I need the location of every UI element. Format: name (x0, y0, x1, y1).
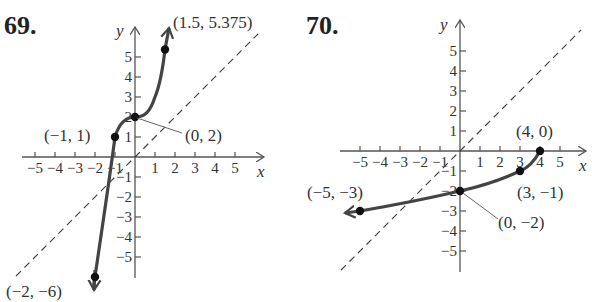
svg-text:5: 5 (450, 43, 458, 59)
svg-text:3: 3 (450, 83, 458, 99)
point-4-0 (536, 147, 544, 155)
svg-text:−3: −3 (116, 209, 132, 225)
label-1.5-5.375: (1.5, 5.375) (173, 13, 252, 32)
point-neg5-neg3 (356, 207, 364, 215)
svg-text:−3: −3 (67, 160, 83, 176)
y-axis-label: y (114, 21, 124, 40)
svg-text:4: 4 (211, 160, 219, 176)
svg-text:5: 5 (556, 154, 564, 170)
svg-text:−2: −2 (116, 189, 132, 205)
svg-text:1: 1 (450, 123, 458, 139)
point-neg1-1 (111, 133, 119, 141)
svg-text:3: 3 (125, 89, 133, 105)
svg-text:5: 5 (231, 160, 239, 176)
point-neg2-neg6 (91, 273, 99, 281)
svg-text:−5: −5 (441, 243, 457, 259)
x-tick-labels: −5 −4 −3 −2 −1 1 2 3 4 5 (27, 160, 239, 176)
problem-number-69: 69. (4, 11, 37, 40)
leader-line (463, 193, 498, 219)
label-0-2: (0, 2) (185, 126, 222, 145)
svg-text:−5: −5 (352, 154, 368, 170)
svg-text:2: 2 (450, 103, 458, 119)
svg-text:−4: −4 (116, 229, 132, 245)
label-0-neg2: (0, −2) (498, 213, 544, 232)
svg-text:−2: −2 (412, 154, 428, 170)
svg-text:1: 1 (151, 160, 159, 176)
svg-text:−4: −4 (372, 154, 388, 170)
svg-text:2: 2 (171, 160, 179, 176)
label-3-neg1: (3, −1) (517, 183, 563, 202)
y-axis-label: y (438, 15, 448, 34)
label-neg5-neg3: (−5, −3) (307, 183, 363, 202)
point-1.5-5.375 (161, 45, 169, 53)
point-0-2 (131, 113, 139, 121)
x-axis-label: x (256, 162, 265, 181)
svg-text:3: 3 (191, 160, 199, 176)
svg-text:−1: −1 (441, 163, 457, 179)
svg-text:−3: −3 (441, 203, 457, 219)
graph-70: 70. x y −5 −4 −3 −2 −1 1 2 3 4 5 (306, 11, 587, 272)
figure: 69. x y −5 −4 −3 −2 −1 1 2 3 4 5 (0, 0, 592, 302)
point-3-neg1 (516, 167, 524, 175)
label-neg2-neg6: (−2, −6) (6, 282, 62, 301)
svg-text:−2: −2 (87, 160, 103, 176)
svg-text:−5: −5 (27, 160, 43, 176)
svg-text:−1: −1 (116, 169, 132, 185)
svg-text:5: 5 (125, 49, 133, 65)
reference-line-y-equals-x (16, 34, 258, 276)
graph-69: 69. x y −5 −4 −3 −2 −1 1 2 3 4 5 (4, 11, 265, 301)
problem-number-70: 70. (306, 11, 339, 40)
svg-text:4: 4 (125, 69, 133, 85)
label-neg1-1: (−1, 1) (44, 126, 90, 145)
x-axis-label: x (578, 156, 587, 175)
svg-text:−4: −4 (47, 160, 63, 176)
svg-text:1: 1 (125, 129, 133, 145)
svg-text:−5: −5 (116, 249, 132, 265)
leader-line (137, 118, 182, 133)
reference-line-y-equals-x (341, 30, 581, 270)
label-4-0: (4, 0) (516, 122, 553, 141)
svg-text:2: 2 (496, 154, 504, 170)
svg-text:−4: −4 (441, 223, 457, 239)
svg-text:−3: −3 (392, 154, 408, 170)
svg-text:1: 1 (476, 154, 484, 170)
svg-text:4: 4 (450, 63, 458, 79)
point-0-neg2 (456, 187, 464, 195)
